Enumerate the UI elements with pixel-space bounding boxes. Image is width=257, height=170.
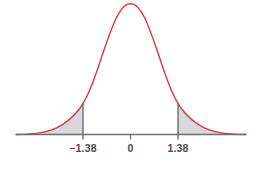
right-tail-shaded-region xyxy=(178,103,246,134)
tick-label-negative: −1.38 xyxy=(69,142,97,154)
normal-density-curve xyxy=(16,4,246,135)
tick-label-zero: 0 xyxy=(127,142,133,154)
tick-label-positive: 1.38 xyxy=(167,142,188,154)
normal-curve-figure: −1.38 0 1.38 xyxy=(0,0,257,170)
